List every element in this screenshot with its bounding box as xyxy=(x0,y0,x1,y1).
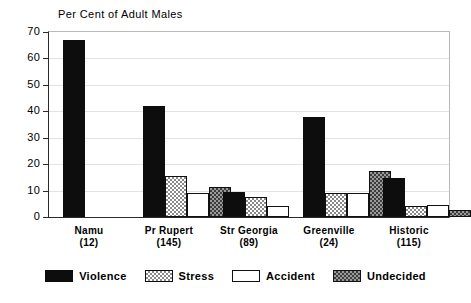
legend-swatch-violence xyxy=(45,270,73,282)
x-axis-group-label: Pr Rupert(145) xyxy=(129,225,209,249)
x-axis-group-label: Namu(12) xyxy=(49,225,129,249)
bar-violence-pr-rupert[interactable] xyxy=(143,106,165,217)
legend-swatch-accident xyxy=(232,270,260,282)
bar-violence-str-georgia[interactable] xyxy=(223,192,245,217)
bar-accident-historic[interactable] xyxy=(427,205,449,217)
legend-label-undecided: Undecided xyxy=(367,270,426,282)
bar-stress-greenville[interactable] xyxy=(325,193,347,217)
x-axis-group-label: Str Georgia(89) xyxy=(209,225,289,249)
y-axis-tick-label: 0 xyxy=(8,210,40,222)
y-axis-tick-label: 70 xyxy=(8,25,40,37)
x-axis-group-count: (24) xyxy=(289,237,369,249)
legend-item-accident[interactable]: Accident xyxy=(232,270,315,282)
bar-violence-greenville[interactable] xyxy=(303,117,325,217)
y-axis-tick-label: 30 xyxy=(8,131,40,143)
x-axis-group-name: Pr Rupert xyxy=(129,225,209,237)
bar-undecided-historic[interactable] xyxy=(449,210,471,217)
y-axis-tick-label: 60 xyxy=(8,51,40,63)
x-axis-group-label: Historic(115) xyxy=(369,225,449,249)
x-axis-group-count: (89) xyxy=(209,237,289,249)
legend-item-violence[interactable]: Violence xyxy=(45,270,126,282)
bar-stress-str-georgia[interactable] xyxy=(245,197,267,217)
bar-stress-pr-rupert[interactable] xyxy=(165,176,187,217)
legend-item-stress[interactable]: Stress xyxy=(145,270,214,282)
bar-stress-historic[interactable] xyxy=(405,206,427,217)
x-axis-group-label: Greenville(24) xyxy=(289,225,369,249)
gridline xyxy=(49,85,449,86)
x-axis-group-count: (115) xyxy=(369,237,449,249)
gridline xyxy=(49,164,449,165)
x-axis-group-name: Greenville xyxy=(289,225,369,237)
plot-area xyxy=(48,31,450,218)
bar-violence-namu[interactable] xyxy=(63,40,85,217)
legend-label-violence: Violence xyxy=(79,270,126,282)
bar-accident-str-georgia[interactable] xyxy=(267,206,289,217)
legend-label-accident: Accident xyxy=(266,270,315,282)
bar-violence-historic[interactable] xyxy=(383,178,405,217)
x-axis-group-count: (145) xyxy=(129,237,209,249)
legend-swatch-stress xyxy=(145,270,173,282)
y-axis-tick-label: 40 xyxy=(8,104,40,116)
gridline xyxy=(49,111,449,112)
y-axis-tick-label: 10 xyxy=(8,184,40,196)
x-axis-group-name: Str Georgia xyxy=(209,225,289,237)
x-axis-group-name: Historic xyxy=(369,225,449,237)
legend-label-stress: Stress xyxy=(179,270,214,282)
y-axis-tick-label: 50 xyxy=(8,78,40,90)
bar-accident-pr-rupert[interactable] xyxy=(187,193,209,217)
legend-swatch-undecided xyxy=(333,270,361,282)
x-axis-group-name: Namu xyxy=(49,225,129,237)
y-axis-tick-label: 20 xyxy=(8,157,40,169)
bar-chart-figure: Per Cent of Adult Males 010203040506070 … xyxy=(0,0,471,303)
chart-legend: ViolenceStressAccidentUndecided xyxy=(0,270,471,282)
bar-accident-greenville[interactable] xyxy=(347,193,369,217)
legend-item-undecided[interactable]: Undecided xyxy=(333,270,426,282)
x-axis-group-count: (12) xyxy=(49,237,129,249)
gridline xyxy=(49,138,449,139)
gridline xyxy=(49,58,449,59)
